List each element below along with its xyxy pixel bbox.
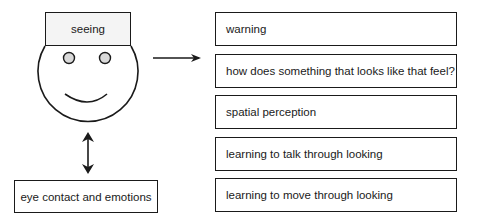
face-outline: [38, 46, 138, 122]
eye-contact-label: eye contact and emotions: [20, 191, 151, 203]
list-item-feel: how does something that looks like that …: [215, 54, 457, 88]
eye-contact-box: eye contact and emotions: [14, 180, 158, 213]
seeing-label: seeing: [71, 23, 105, 35]
left-eye-icon: [64, 53, 75, 64]
list-item-spatial: spatial perception: [215, 95, 457, 129]
list-item-label: warning: [226, 23, 266, 35]
right-eye-icon: [100, 53, 111, 64]
list-item-warning: warning: [215, 12, 457, 46]
list-item-move: learning to move through looking: [215, 178, 457, 212]
list-item-talk: learning to talk through looking: [215, 137, 457, 171]
seeing-label-box: seeing: [45, 12, 131, 46]
list-item-label: how does something that looks like that …: [226, 65, 455, 77]
list-item-label: learning to talk through looking: [226, 148, 383, 160]
smile: [65, 94, 107, 102]
list-item-label: spatial perception: [226, 106, 316, 118]
list-item-label: learning to move through looking: [226, 189, 393, 201]
